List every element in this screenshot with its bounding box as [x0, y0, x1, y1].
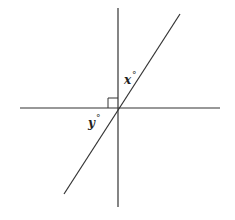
angle-label-x: x	[123, 73, 132, 87]
right-angle-marker	[108, 98, 118, 108]
angle-label-y: y	[87, 116, 96, 130]
degree-symbol-x: °	[132, 70, 137, 80]
degree-symbol-y: °	[96, 113, 101, 123]
angle-diagram: x ° y °	[0, 0, 235, 220]
slanted-line	[64, 14, 180, 194]
